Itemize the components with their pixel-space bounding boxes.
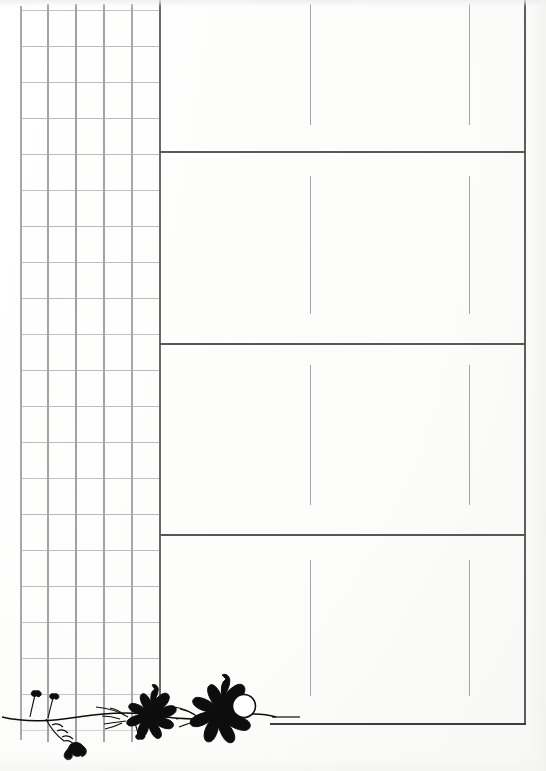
leaf-spray-left	[46, 719, 74, 745]
graph-paper-grid	[0, 0, 170, 771]
section-dividers	[160, 152, 526, 724]
ruled-writing-panel	[150, 0, 546, 771]
mid-flower	[127, 685, 176, 739]
section-tick-guides	[310, 4, 469, 696]
small-bud-left-two	[48, 694, 59, 718]
large-flower-center-circle	[233, 695, 256, 718]
leaf-spray-mid	[96, 707, 128, 729]
grid-vertical-lines	[21, 4, 132, 742]
floral-vine-ornament	[0, 661, 300, 771]
grid-horizontal-lines	[21, 10, 160, 730]
large-flower	[190, 674, 255, 742]
small-bud-left	[30, 691, 41, 717]
scanned-form-page	[0, 0, 546, 771]
small-dark-leaf	[64, 742, 86, 759]
